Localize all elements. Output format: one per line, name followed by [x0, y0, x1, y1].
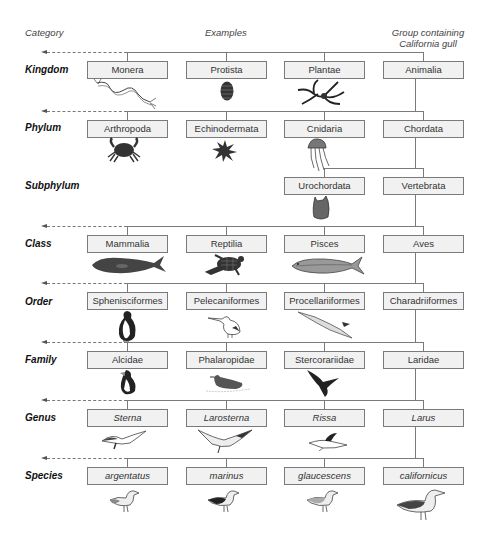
branch-drop — [127, 342, 128, 351]
rank-family: Family — [25, 354, 57, 365]
branch-drop — [226, 400, 227, 409]
pelican-icon — [206, 310, 242, 338]
branch-drop — [324, 226, 325, 235]
fish-icon — [290, 256, 366, 276]
glaucous-winged-gull-icon — [305, 488, 339, 514]
taxon-animalia: Animalia — [383, 61, 464, 79]
branch-line — [127, 342, 423, 343]
sea-turtle-icon — [205, 253, 245, 277]
branch-drop — [127, 111, 128, 120]
whale-icon — [90, 254, 168, 276]
taxon-alcidae: Alcidae — [87, 351, 168, 369]
rank-genus: Genus — [25, 412, 56, 423]
branch-drop — [324, 400, 325, 409]
taxon-sterna: Sterna — [87, 409, 168, 427]
taxon-pisces: Pisces — [284, 235, 365, 253]
dashed-connector — [47, 400, 127, 401]
taxon-laridae: Laridae — [383, 351, 464, 369]
header-group-line2: California gull — [388, 38, 468, 49]
branch-line — [324, 168, 423, 169]
lineage-line — [415, 138, 416, 168]
branch-drop — [127, 283, 128, 292]
dashed-connector — [47, 226, 127, 227]
sea-squirt-icon — [311, 195, 331, 221]
branch-line — [127, 226, 423, 227]
taxon-sphenisciformes: Sphenisciformes — [87, 292, 168, 310]
taxon-argentatus: argentatus — [87, 467, 168, 485]
branch-drop — [226, 52, 227, 61]
taxon-monera: Monera — [87, 61, 168, 79]
taxon-plantae: Plantae — [284, 61, 365, 79]
branch-drop — [423, 458, 424, 467]
jellyfish-icon — [306, 138, 330, 174]
bacterium-icon — [92, 78, 157, 110]
branch-drop — [127, 458, 128, 467]
branch-drop — [324, 52, 325, 61]
rank-phylum: Phylum — [25, 122, 61, 133]
branch-drop — [423, 168, 424, 177]
branch-drop — [423, 226, 424, 235]
dashed-connector — [47, 52, 127, 53]
taxon-phalaropidae: Phalaropidae — [186, 351, 267, 369]
taxon-vertebrata: Vertebrata — [383, 177, 464, 195]
dashed-connector — [47, 283, 127, 284]
taxon-rissa: Rissa — [284, 409, 365, 427]
branch-drop — [324, 342, 325, 351]
albatross-icon — [296, 310, 356, 340]
branch-line — [127, 458, 423, 459]
branch-line — [127, 52, 423, 53]
taxon-pelecaniformes: Pelecaniformes — [186, 292, 267, 310]
taxon-marinus: marinus — [186, 467, 267, 485]
kittiwake-icon — [307, 431, 349, 451]
puffin-icon — [117, 369, 139, 395]
taxon-aves: Aves — [383, 235, 464, 253]
crab-icon — [106, 137, 142, 163]
taxon-larosterna: Larosterna — [186, 409, 267, 427]
header-examples: Examples — [205, 27, 247, 38]
taxon-larus: Larus — [383, 409, 464, 427]
branch-drop — [226, 111, 227, 120]
branch-drop — [127, 52, 128, 61]
header-category: Category — [25, 27, 64, 38]
branch-drop — [423, 52, 424, 61]
penguin-icon — [115, 310, 139, 342]
header-group-line1: Group containing — [388, 27, 468, 38]
branch-drop — [226, 283, 227, 292]
branch-drop — [127, 226, 128, 235]
inca-tern-icon — [196, 428, 254, 454]
branch-drop — [423, 342, 424, 351]
taxon-chordata: Chordata — [383, 120, 464, 138]
branch-drop — [324, 458, 325, 467]
branch-drop — [226, 342, 227, 351]
taxon-protista: Protista — [186, 61, 267, 79]
skua-icon — [305, 366, 341, 398]
dashed-connector — [47, 111, 127, 112]
herring-gull-icon — [108, 488, 140, 514]
black-backed-gull-icon — [206, 488, 240, 514]
taxon-mammalia: Mammalia — [87, 235, 168, 253]
branch-drop — [127, 400, 128, 409]
rank-class: Class — [25, 238, 52, 249]
rank-kingdom: Kingdom — [25, 64, 68, 75]
rank-order: Order — [25, 296, 52, 307]
taxon-cnidaria: Cnidaria — [284, 120, 365, 138]
dashed-connector — [47, 342, 127, 343]
branch-drop — [423, 111, 424, 120]
branch-line — [127, 111, 423, 112]
lineage-line — [415, 195, 416, 226]
lineage-line — [415, 369, 416, 400]
dashed-connector — [47, 458, 127, 459]
lineage-line — [415, 253, 416, 283]
lineage-line — [415, 79, 416, 111]
taxon-urochordata: Urochordata — [284, 177, 365, 195]
protist-icon — [219, 80, 235, 102]
lineage-line — [415, 427, 416, 458]
lineage-line — [415, 310, 416, 342]
branch-line — [127, 283, 423, 284]
taxon-reptilia: Reptilia — [186, 235, 267, 253]
rank-species: Species — [25, 470, 63, 481]
branch-drop — [324, 283, 325, 292]
taxon-californicus: californicus — [383, 467, 464, 485]
taxon-echinodermata: Echinodermata — [186, 120, 267, 138]
branch-drop — [423, 283, 424, 292]
